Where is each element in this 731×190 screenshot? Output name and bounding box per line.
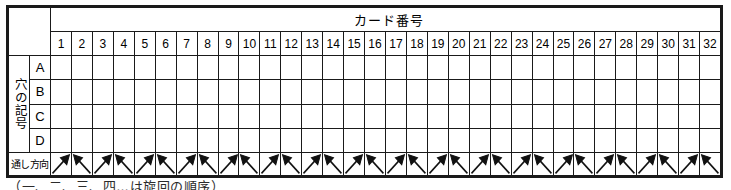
punchcard-table: カード番号 1234567891011121314151617181920212… [8,7,721,176]
threading-arrow-up-right-11 [260,152,281,175]
threading-arrow-up-right-9 [218,152,239,175]
column-number-header-25: 25 [553,32,574,56]
hole-cell-d-28 [616,128,637,152]
hole-cell-b-14 [323,80,344,104]
hole-cell-c-29 [637,104,658,128]
hole-cell-a-21 [469,56,490,80]
column-number-header-10: 10 [239,32,260,56]
hole-cell-c-18 [406,104,427,128]
hole-cell-b-6 [155,80,176,104]
hole-cell-d-20 [448,128,469,152]
hole-cell-b-28 [616,80,637,104]
threading-arrow-up-right-1 [51,152,72,175]
hole-cell-b-27 [595,80,616,104]
column-number-header-12: 12 [281,32,302,56]
column-number-header-11: 11 [260,32,281,56]
hole-cell-c-6 [155,104,176,128]
hole-cell-c-8 [197,104,218,128]
hole-cell-c-5 [134,104,155,128]
column-number-header-32: 32 [700,32,721,56]
hole-cell-c-30 [658,104,679,128]
threading-direction-label: 通し方向 [9,152,51,175]
hole-cell-b-12 [281,80,302,104]
column-number-header-14: 14 [323,32,344,56]
hole-cell-a-19 [427,56,448,80]
threading-arrow-up-right-21 [469,152,490,175]
hole-cell-d-1 [51,128,72,152]
column-number-header-1: 1 [51,32,72,56]
hole-cell-b-21 [469,80,490,104]
hole-cell-b-1 [51,80,72,104]
column-number-header-15: 15 [344,32,365,56]
hole-cell-b-26 [574,80,595,104]
threading-arrow-up-right-31 [679,152,700,175]
column-number-header-19: 19 [427,32,448,56]
hole-cell-d-25 [553,128,574,152]
column-number-header-30: 30 [658,32,679,56]
hole-cell-c-22 [490,104,511,128]
column-number-header-28: 28 [616,32,637,56]
threading-arrow-up-right-27 [595,152,616,175]
hole-cell-b-20 [448,80,469,104]
hole-symbol-side-label-text: 穴の記号 [13,78,26,130]
hole-cell-b-13 [302,80,323,104]
hole-cell-c-11 [260,104,281,128]
threading-arrow-up-right-13 [302,152,323,175]
hole-cell-a-15 [344,56,365,80]
hole-cell-d-22 [490,128,511,152]
column-number-header-29: 29 [637,32,658,56]
threading-arrow-up-right-25 [553,152,574,175]
hole-cell-a-3 [92,56,113,80]
hole-cell-c-28 [616,104,637,128]
column-number-header-20: 20 [448,32,469,56]
hole-cell-a-18 [406,56,427,80]
hole-cell-d-6 [155,128,176,152]
hole-cell-a-29 [637,56,658,80]
threading-arrow-up-left-8 [197,152,218,175]
threading-direction-row: 通し方向 [9,152,721,175]
column-number-header-27: 27 [595,32,616,56]
hole-cell-b-22 [490,80,511,104]
hole-cell-a-6 [155,56,176,80]
hole-cell-b-31 [679,80,700,104]
hole-row-b: B [9,80,721,104]
column-number-header-9: 9 [218,32,239,56]
hole-cell-a-5 [134,56,155,80]
hole-cell-a-13 [302,56,323,80]
hole-symbol-side-label: 穴の記号 [9,56,30,153]
hole-cell-d-2 [71,128,92,152]
hole-cell-a-10 [239,56,260,80]
hole-row-letter-b: B [30,80,51,104]
hole-cell-d-11 [260,128,281,152]
hole-cell-b-8 [197,80,218,104]
column-number-header-13: 13 [302,32,323,56]
hole-cell-d-14 [323,128,344,152]
column-number-header-17: 17 [386,32,407,56]
hole-cell-d-26 [574,128,595,152]
threading-arrow-up-right-15 [344,152,365,175]
hole-cell-a-22 [490,56,511,80]
column-number-header-22: 22 [490,32,511,56]
hole-cell-a-26 [574,56,595,80]
hole-cell-c-12 [281,104,302,128]
threading-arrow-up-right-29 [637,152,658,175]
hole-cell-c-4 [113,104,134,128]
hole-cell-c-7 [176,104,197,128]
hole-row-d: D [9,128,721,152]
threading-arrow-up-left-24 [532,152,553,175]
hole-cell-d-24 [532,128,553,152]
hole-cell-c-27 [595,104,616,128]
hole-cell-a-12 [281,56,302,80]
hole-cell-a-24 [532,56,553,80]
hole-cell-c-13 [302,104,323,128]
column-number-header-2: 2 [71,32,92,56]
hole-cell-c-10 [239,104,260,128]
hole-cell-a-14 [323,56,344,80]
card-number-header: カード番号 [51,8,721,32]
hole-cell-d-27 [595,128,616,152]
hole-cell-d-3 [92,128,113,152]
hole-cell-d-5 [134,128,155,152]
corner-blank-cell [9,8,51,56]
punchcard-diagram-root: カード番号 1234567891011121314151617181920212… [0,0,731,190]
hole-cell-c-24 [532,104,553,128]
